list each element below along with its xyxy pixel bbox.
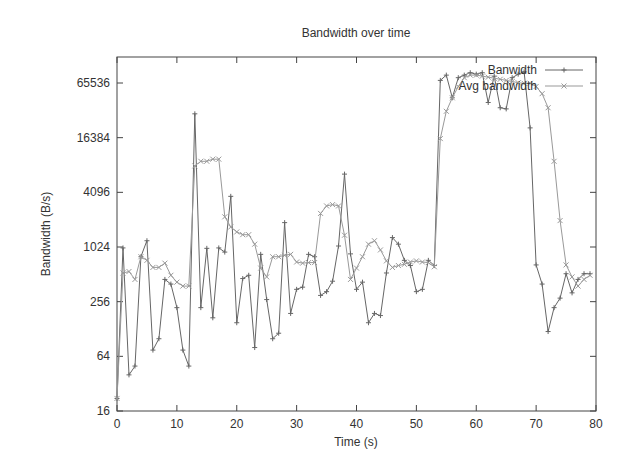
y-tick-label: 1024 — [83, 240, 110, 254]
data-point — [378, 247, 383, 252]
data-point — [300, 285, 305, 290]
data-point — [120, 245, 125, 250]
data-point — [414, 289, 419, 294]
data-point — [228, 194, 233, 199]
data-point — [528, 125, 533, 130]
data-point — [420, 287, 425, 292]
x-tick-label: 20 — [230, 417, 244, 431]
series-banwidth — [115, 69, 593, 401]
data-point — [168, 273, 173, 278]
y-tick-label: 16384 — [77, 131, 111, 145]
data-point — [360, 254, 365, 259]
data-point — [144, 238, 149, 243]
data-point — [552, 305, 557, 310]
data-point — [582, 277, 587, 282]
data-point — [144, 258, 149, 263]
data-point — [570, 290, 575, 295]
data-point — [336, 244, 341, 249]
data-point — [558, 296, 563, 301]
data-point — [264, 274, 269, 279]
series-line-banwidth — [117, 72, 590, 399]
data-point — [306, 252, 311, 257]
data-point — [174, 305, 179, 310]
x-tick-label: 70 — [529, 417, 543, 431]
data-point — [234, 229, 239, 234]
y-axis: 1664256102440961638465536 — [77, 76, 596, 418]
data-point — [570, 274, 575, 279]
data-point — [534, 262, 539, 267]
series-layer — [115, 69, 593, 401]
data-point — [288, 311, 293, 316]
data-point — [258, 252, 263, 257]
data-point — [132, 364, 137, 369]
data-point — [312, 254, 317, 259]
data-point — [540, 91, 545, 96]
series-avg-bandwidth — [115, 73, 593, 401]
data-point — [498, 105, 503, 110]
x-tick-label: 30 — [290, 417, 304, 431]
data-point — [282, 220, 287, 225]
data-point — [540, 282, 545, 287]
data-point — [264, 297, 269, 302]
data-point — [384, 270, 389, 275]
data-point — [330, 279, 335, 284]
data-point — [180, 348, 185, 353]
x-tick-label: 0 — [114, 417, 121, 431]
data-point — [150, 348, 155, 353]
data-point — [504, 106, 509, 111]
y-tick-label: 4096 — [83, 185, 110, 199]
data-point — [204, 246, 209, 251]
data-point — [252, 345, 257, 350]
data-point — [366, 242, 371, 247]
data-point — [156, 336, 161, 341]
y-axis-label: Bandwidth (B/s) — [39, 192, 53, 277]
data-point — [546, 329, 551, 334]
x-tick-label: 80 — [589, 417, 603, 431]
data-point — [372, 238, 377, 243]
y-tick-label: 16 — [97, 404, 111, 418]
x-tick-label: 50 — [410, 417, 424, 431]
data-point — [324, 289, 329, 294]
x-tick-label: 60 — [470, 417, 484, 431]
data-point — [174, 280, 179, 285]
x-tick-label: 10 — [170, 417, 184, 431]
data-point — [240, 276, 245, 281]
data-point — [186, 364, 191, 369]
data-point — [162, 261, 167, 266]
x-axis-label: Time (s) — [334, 435, 378, 449]
data-point — [348, 251, 353, 256]
y-tick-label: 65536 — [77, 76, 111, 90]
legend: Banwidth Avg bandwidth — [458, 63, 583, 93]
data-point — [378, 313, 383, 318]
data-point — [474, 72, 479, 77]
data-point — [210, 315, 215, 320]
y-tick-label: 256 — [90, 295, 110, 309]
x-tick-label: 40 — [350, 417, 364, 431]
data-point — [192, 111, 197, 116]
data-point — [564, 271, 569, 276]
series-line-avg-bandwidth — [117, 75, 590, 398]
data-point — [234, 320, 239, 325]
legend-label-avg-bandwidth: Avg bandwidth — [458, 79, 537, 93]
data-point — [366, 320, 371, 325]
data-point — [342, 172, 347, 177]
data-point — [246, 273, 251, 278]
legend-label-bandwidth: Banwidth — [488, 63, 537, 77]
chart-title: Bandwidth over time — [302, 26, 411, 40]
data-point — [486, 100, 491, 105]
y-tick-label: 64 — [97, 349, 111, 363]
data-point — [294, 287, 299, 292]
data-point — [372, 311, 377, 316]
x-axis: 01020304050607080 — [114, 57, 603, 431]
data-point — [576, 284, 581, 289]
data-point — [318, 293, 323, 298]
bandwidth-chart: Bandwidth over time 16642561024409616384… — [0, 0, 634, 476]
data-point — [198, 305, 203, 310]
data-point — [390, 265, 395, 270]
data-point — [354, 266, 359, 271]
